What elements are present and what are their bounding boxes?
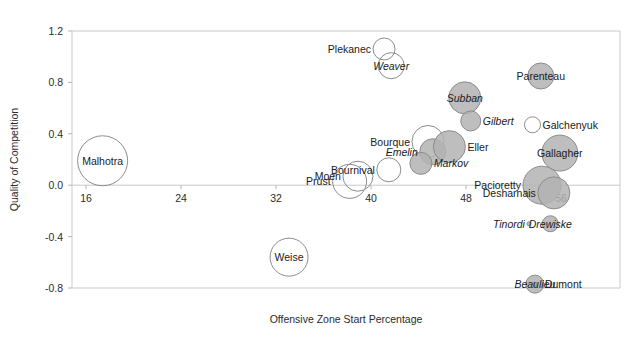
x-axis-title: Offensive Zone Start Percentage: [270, 313, 423, 325]
chart-canvas: 1.20.80.40.0-0.4-0.8162432404856 Malhotr…: [0, 0, 636, 338]
y-axis-title: Quality of Competition: [8, 108, 20, 211]
label-emelin: Emelin: [386, 146, 418, 158]
label-drewiske: Drewiske: [529, 218, 572, 230]
y-tick-label: -0.8: [45, 282, 63, 294]
label-markov: Markov: [434, 157, 469, 169]
bubble-galchenyuk: [525, 117, 541, 133]
label-galchenyuk: Galchenyuk: [543, 119, 599, 131]
label-gallagher: Gallagher: [537, 147, 583, 159]
label-desharnais: Desharnais: [483, 187, 536, 199]
bubble-gilbert: [461, 111, 481, 131]
y-tick-label: 0.8: [48, 76, 63, 88]
point-labels: MalhotraWeisePrustMoenBournivalBourqueEm…: [82, 43, 599, 290]
label-bournival: Bournival: [331, 164, 375, 176]
y-tick-label: -0.4: [45, 231, 63, 243]
y-tick-label: 0.4: [48, 128, 63, 140]
bubble-series: [78, 38, 578, 293]
x-tick-label: 24: [175, 192, 187, 204]
x-tick-label: 16: [80, 192, 92, 204]
label-dumont: Dumont: [545, 278, 582, 290]
axis-titles: Offensive Zone Start PercentageQuality o…: [8, 108, 423, 325]
label-plekanec: Plekanec: [328, 43, 371, 55]
label-eller: Eller: [467, 141, 489, 153]
bubble-bournival: [377, 158, 401, 182]
label-weise: Weise: [275, 251, 304, 263]
label-gilbert: Gilbert: [483, 115, 515, 127]
axis-ticks: 1.20.80.40.0-0.4-0.8162432404856: [45, 25, 567, 294]
y-tick-label: 0.0: [48, 179, 63, 191]
bubble-plekanec: [373, 38, 395, 60]
bubble-desharnais: [538, 177, 570, 209]
x-tick-label: 32: [270, 192, 282, 204]
bubble-scatter-plot: 1.20.80.40.0-0.4-0.8162432404856 Malhotr…: [0, 0, 636, 338]
x-tick-label: 48: [460, 192, 472, 204]
label-weaver: Weaver: [373, 60, 409, 72]
x-tick-label: 40: [365, 192, 377, 204]
y-tick-label: 1.2: [48, 25, 63, 37]
label-parenteau: Parenteau: [517, 70, 566, 82]
label-malhotra: Malhotra: [82, 155, 123, 167]
label-subban: Subban: [447, 92, 483, 104]
label-tinordi: Tinordi: [493, 218, 526, 230]
